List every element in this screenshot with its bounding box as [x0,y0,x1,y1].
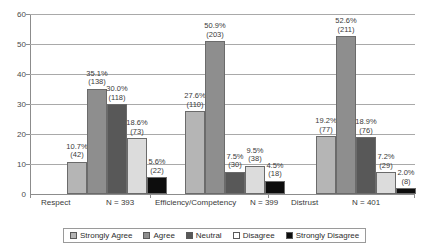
x-count-label-distrust: N = 401 [352,198,380,207]
bar-respect-agree [87,89,107,194]
bar-respect-strongly-agree [67,162,87,194]
legend-item-strongly-disagree[interactable]: Strongly Disagree [286,231,360,240]
y-tick-label-30: 30 [6,101,26,109]
x-category-label-efficiency-competency: Efficiency/Competency [155,198,236,207]
legend-item-strongly-agree[interactable]: Strongly Agree [70,231,132,240]
legend-swatch-icon-neutral [186,232,193,239]
y-tick-label-40: 40 [6,71,26,79]
legend-swatch-icon-disagree [233,232,240,239]
y-tick-label-10: 10 [6,161,26,169]
y-tick-label-0: 0 [6,191,26,199]
bar-value-label: 52.6%(211) [327,17,365,34]
bar-efficiency-competency-neutral [225,172,245,195]
x-category-label-respect: Respect [41,198,70,207]
x-tick-3 [414,194,415,198]
y-tick-label-60: 60 [6,11,26,19]
legend-label-disagree: Disagree [243,231,275,240]
bar-distrust-agree [336,36,356,194]
legend-item-disagree[interactable]: Disagree [233,231,275,240]
legend-item-agree[interactable]: Agree [143,231,174,240]
bar-value-label: 18.6%(73) [118,119,156,136]
legend-swatch-icon-strongly-disagree [286,232,293,239]
x-axis-line [30,194,415,195]
bar-value-label: 30.0%(118) [98,85,136,102]
y-tick-label-50: 50 [6,41,26,49]
legend-label-neutral: Neutral [196,231,222,240]
bar-efficiency-competency-strongly-agree [185,111,205,194]
bar-efficiency-competency-agree [205,41,225,194]
bar-count-label: (76) [347,127,385,136]
plot-area: 10.7%(42)35.1%(138)30.0%(118)18.6%(73)5.… [30,14,415,194]
bar-distrust-strongly-agree [316,136,336,194]
bar-value-label: 50.9%(203) [196,22,234,39]
legend-swatch-icon-strongly-agree [70,232,77,239]
bar-value-label: 2.0%(8) [387,169,423,186]
bar-count-label: (22) [138,167,176,176]
bar-chart: 60 50 40 30 20 10 0 10.7%(42)35.1%(138)3… [0,0,423,252]
bar-value-label: 5.6%(22) [138,158,176,175]
legend-swatch-icon-agree [143,232,150,239]
bar-count-label: (73) [118,128,156,137]
legend-label-agree: Agree [153,231,174,240]
x-tick-0 [30,194,31,198]
bar-distrust-strongly-disagree [396,188,416,194]
bar-respect-neutral [107,104,127,194]
bar-count-label: (118) [98,94,136,103]
x-category-label-distrust: Distrust [291,198,318,207]
legend-label-strongly-disagree: Strongly Disagree [296,231,360,240]
y-tick-label-20: 20 [6,131,26,139]
bar-count-label: (211) [327,26,365,35]
bar-respect-strongly-disagree [147,177,167,194]
chart-legend: Strongly Agree Agree Neutral Disagree St… [63,228,366,243]
legend-label-strongly-agree: Strongly Agree [80,231,132,240]
bar-value-label: 4.5%(18) [256,162,294,179]
x-count-label-efficiency-competency: N = 399 [250,198,278,207]
bar-efficiency-competency-strongly-disagree [265,181,285,195]
bar-count-label: (203) [196,31,234,40]
bar-value-label: 18.9%(76) [347,118,385,135]
legend-item-neutral[interactable]: Neutral [186,231,222,240]
x-tick-1 [150,194,151,198]
x-count-label-respect: N = 393 [106,198,134,207]
bar-count-label: (8) [387,178,423,187]
bar-count-label: (18) [256,170,294,179]
